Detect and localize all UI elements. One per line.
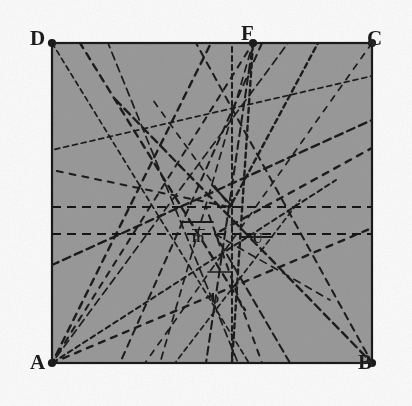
- vertex-label-b-corner: B: [358, 352, 372, 373]
- geometry-figure-root: D C A B F m U b: [0, 0, 412, 406]
- vertex-label-c: C: [367, 28, 382, 49]
- vertex-label-a: A: [30, 352, 45, 373]
- figure-canvas: [0, 0, 412, 406]
- vertex-label-f: F: [241, 23, 254, 44]
- paper-grain: [0, 0, 412, 406]
- inner-label-m: m: [192, 229, 205, 245]
- vertex-label-d: D: [30, 28, 45, 49]
- inner-label-m-text: m: [192, 229, 205, 245]
- inner-label-b: b: [211, 291, 219, 306]
- inner-label-u: U: [252, 231, 263, 246]
